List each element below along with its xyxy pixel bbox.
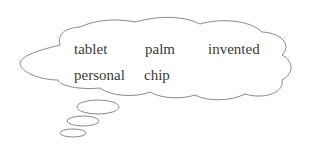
word-invented: invented (208, 42, 260, 57)
thought-bubble-medium (67, 116, 99, 126)
word-personal: personal (74, 68, 125, 83)
word-chip: chip (144, 68, 170, 83)
thought-bubble-small (60, 129, 86, 137)
thought-bubble-large (77, 100, 119, 114)
word-tablet: tablet (74, 42, 107, 57)
cloud-outline (20, 17, 291, 99)
word-palm: palm (145, 42, 175, 57)
